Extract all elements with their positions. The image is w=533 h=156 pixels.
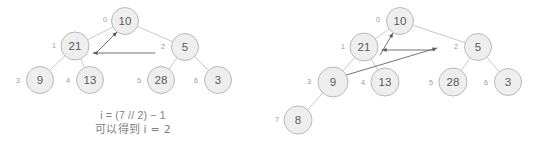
- node-value: 9: [330, 76, 336, 88]
- heap-node: 413: [361, 68, 399, 96]
- heap-node: 78: [275, 106, 312, 134]
- node-value: 9: [37, 74, 43, 86]
- node-index-label: 5: [137, 76, 141, 85]
- node-value: 3: [505, 76, 511, 88]
- heap-node: 010: [103, 8, 139, 35]
- node-value: 13: [379, 76, 392, 88]
- heap-node: 528: [137, 67, 175, 94]
- tree-edge: [169, 58, 177, 69]
- node-index-label: 3: [307, 77, 311, 86]
- heap-node: 25: [161, 34, 199, 61]
- caption-left-formula: i = (7 // 2) − 1: [53, 108, 213, 122]
- heap-node: 121: [52, 32, 89, 60]
- heap-node: 413: [66, 67, 104, 94]
- node-index-label: 6: [194, 76, 198, 85]
- tree-edge: [343, 57, 355, 70]
- heap-tree-svg-right: 01012125394135286378: [267, 0, 533, 156]
- heap-node: 010: [376, 8, 414, 35]
- node-value: 21: [69, 40, 82, 52]
- node-value: 28: [447, 76, 460, 88]
- heap-diagram-8-elements: 01012125394135286378 i = (8 // 2) − 1 可以…: [267, 0, 533, 156]
- node-index-label: 1: [52, 41, 56, 50]
- heap-node: 39: [16, 67, 54, 94]
- arrow-to-root: [95, 32, 117, 54]
- tree-edge: [461, 58, 470, 71]
- arrow-from-node-3-head: [432, 47, 437, 51]
- node-index-label: 3: [16, 76, 20, 85]
- tree-edge: [81, 59, 85, 68]
- heap-node: 121: [341, 33, 378, 61]
- node-value: 5: [475, 41, 481, 53]
- tree-edge: [88, 27, 113, 40]
- heap-node: 63: [484, 69, 522, 96]
- node-index-label: 0: [103, 15, 107, 24]
- node-index-label: 1: [341, 42, 345, 51]
- node-value: 13: [84, 74, 97, 86]
- tree-edge: [375, 29, 389, 39]
- heap-node: 528: [429, 68, 467, 96]
- node-value: 21: [358, 41, 371, 53]
- figure-canvas: 010121253941352863 i = (7 // 2) − 1 可以得到…: [0, 0, 533, 156]
- node-index-label: 7: [275, 115, 279, 124]
- node-index-label: 4: [361, 78, 365, 87]
- tree-edge: [307, 93, 322, 110]
- node-index-label: 2: [454, 42, 458, 51]
- node-value: 10: [394, 15, 407, 27]
- tree-edge: [50, 56, 65, 71]
- caption-left: i = (7 // 2) − 1 可以得到 i = 2: [53, 108, 213, 138]
- node-value: 8: [295, 114, 301, 126]
- tree-edge: [371, 59, 378, 70]
- heap-node: 25: [454, 34, 492, 61]
- tree-edge: [195, 57, 209, 71]
- node-value: 3: [215, 74, 221, 86]
- node-index-label: 6: [484, 78, 488, 87]
- tree-edge: [487, 57, 499, 72]
- heap-node: 39: [307, 67, 348, 97]
- arrow-to-node-1-head: [93, 51, 98, 55]
- node-index-label: 5: [429, 78, 433, 87]
- caption-left-result: 可以得到 i = 2: [53, 122, 213, 137]
- arrow-to-node-1-head: [382, 48, 387, 52]
- node-value: 10: [119, 15, 132, 27]
- pointer-arrows: [93, 32, 155, 55]
- node-value: 5: [182, 41, 188, 53]
- tree-edge: [137, 26, 172, 41]
- node-index-label: 2: [161, 42, 165, 51]
- heap-diagram-7-elements: 010121253941352863 i = (7 // 2) − 1 可以得到…: [0, 0, 267, 156]
- node-index-label: 0: [376, 15, 380, 24]
- node-index-label: 4: [66, 76, 70, 85]
- node-value: 28: [155, 74, 168, 86]
- tree-edge: [413, 25, 465, 42]
- heap-node: 63: [194, 67, 232, 94]
